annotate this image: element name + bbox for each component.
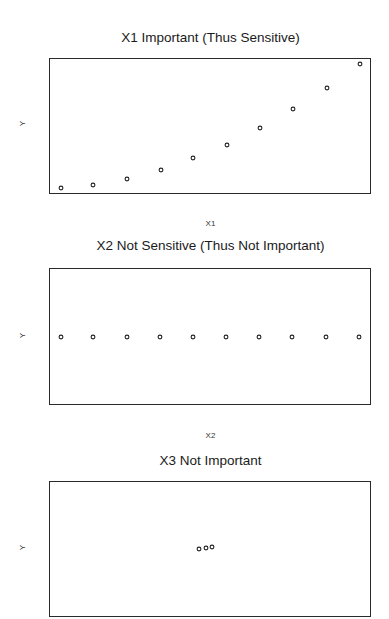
- data-point: [125, 335, 129, 339]
- data-point: [191, 156, 195, 160]
- scatter-points-layer: [0, 0, 389, 619]
- data-point: [197, 547, 201, 551]
- data-point: [59, 186, 63, 190]
- data-point: [224, 335, 228, 339]
- data-point: [225, 143, 229, 147]
- data-point: [290, 335, 294, 339]
- data-point: [357, 335, 361, 339]
- data-point: [204, 546, 208, 550]
- data-point: [257, 335, 261, 339]
- data-point: [291, 107, 295, 111]
- data-point: [324, 335, 328, 339]
- data-point: [158, 335, 162, 339]
- data-point: [258, 126, 262, 130]
- data-point: [325, 86, 329, 90]
- data-point: [210, 545, 214, 549]
- data-point: [91, 183, 95, 187]
- data-point: [59, 335, 63, 339]
- data-point: [191, 335, 195, 339]
- data-point: [159, 168, 163, 172]
- data-point: [125, 177, 129, 181]
- data-point: [91, 335, 95, 339]
- data-point: [358, 62, 362, 66]
